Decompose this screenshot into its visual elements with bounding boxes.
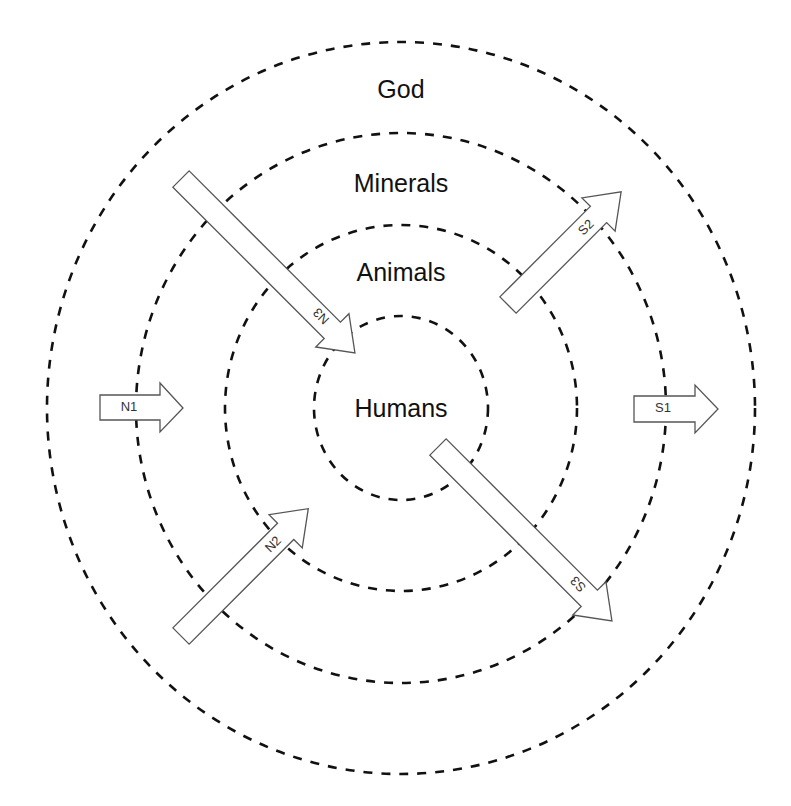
label-animals: Animals: [357, 258, 446, 286]
arrow-diagonal-icon: [421, 430, 628, 637]
arrow-label-n1: N1: [121, 399, 138, 414]
arrow-diagonal-icon: [491, 175, 637, 321]
arrow-right-icon: [100, 383, 183, 432]
arrow-right-icon: [634, 385, 718, 433]
label-minerals: Minerals: [354, 169, 448, 197]
arrow-s2: S2: [491, 175, 637, 321]
arrow-diagonal-icon: [164, 162, 371, 369]
concentric-diagram: God Minerals Animals Humans N1 S1 N3 S3 …: [0, 0, 791, 806]
label-god: God: [377, 75, 424, 103]
arrow-s1: S1: [634, 385, 718, 433]
arrow-label-s1: S1: [655, 400, 671, 415]
arrow-n1: N1: [100, 383, 183, 432]
arrow-n3: N3: [164, 162, 371, 369]
arrow-s3: S3: [421, 430, 628, 637]
label-humans: Humans: [354, 394, 447, 422]
